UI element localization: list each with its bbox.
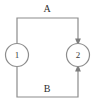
node-2-label: 2 <box>76 50 81 60</box>
edge-b-label: B <box>44 83 51 94</box>
edge-a-path[interactable] <box>17 18 78 44</box>
edge-a-label: A <box>43 3 51 14</box>
graph-canvas: 1 2 A B <box>0 0 96 107</box>
node-1-label: 1 <box>15 50 20 60</box>
graph-diagram: 1 2 A B <box>0 0 96 107</box>
